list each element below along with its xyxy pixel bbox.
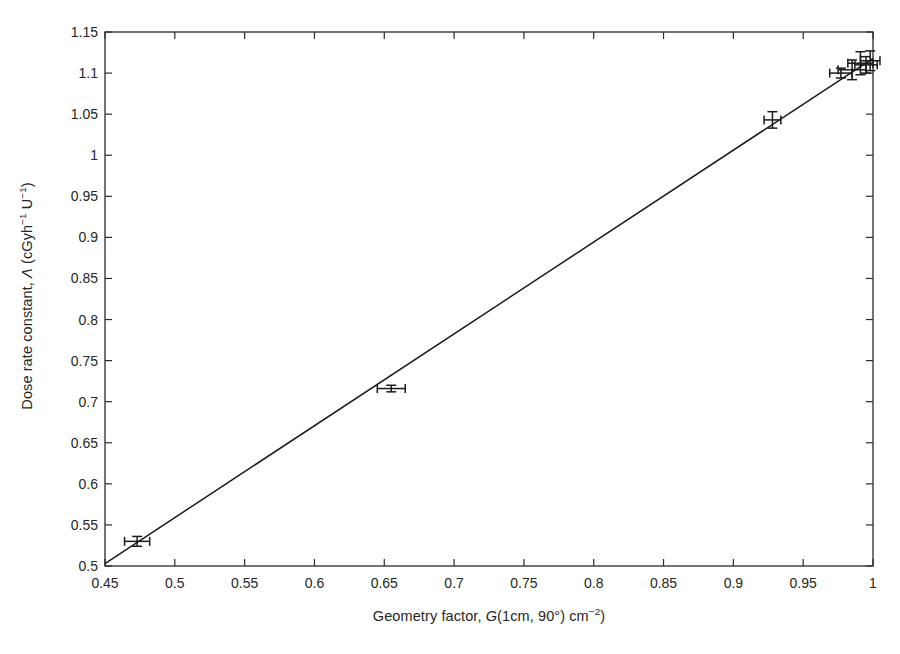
axes-frame bbox=[105, 32, 873, 566]
dose-rate-constant-chart: Dose rate constant, Λ (cGyh−1 U−1) Geome… bbox=[0, 0, 900, 654]
data-point-errorbar bbox=[125, 536, 150, 546]
data-point-errorbar bbox=[377, 384, 405, 393]
data-point-errorbar bbox=[764, 112, 781, 128]
data-points bbox=[125, 51, 880, 546]
plot-canvas bbox=[0, 0, 900, 654]
fit-line bbox=[105, 58, 873, 563]
axis-ticks bbox=[105, 32, 873, 566]
